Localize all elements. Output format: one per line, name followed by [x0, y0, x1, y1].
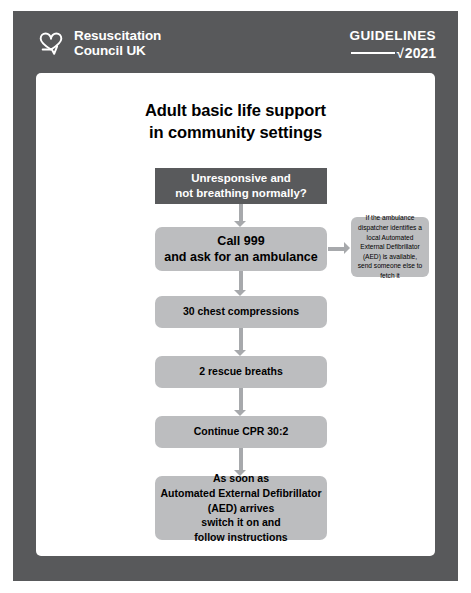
flowchart: Unresponsive and not breathing normally?… [36, 73, 435, 556]
content-card: Adult basic life support in community se… [36, 73, 435, 556]
flow-node-label: 2 rescue breaths [199, 365, 282, 379]
arrow-stem [239, 271, 243, 290]
flow-node-label: Unresponsive and not breathing normally? [175, 171, 307, 201]
guidelines-label: GUIDELINES [349, 29, 436, 43]
arrow-stem [239, 448, 243, 470]
flow-node-call-999: Call 999 and ask for an ambulance [155, 227, 327, 271]
tick-icon: √ [397, 46, 404, 61]
brand-name: Resuscitation Council UK [74, 28, 161, 58]
flow-node-chest-compressions: 30 chest compressions [155, 296, 327, 328]
brand-lockup: Resuscitation Council UK [37, 28, 161, 58]
arrow-stem [239, 388, 243, 410]
flow-node-label: Call 999 and ask for an ambulance [164, 233, 318, 266]
flow-node-label: 30 chest compressions [183, 305, 299, 319]
flow-node-continue-cpr: Continue CPR 30:2 [155, 416, 327, 448]
flow-node-unresponsive: Unresponsive and not breathing normally? [155, 168, 327, 204]
arrow-stem [239, 204, 243, 221]
poster-header: Resuscitation Council UK GUIDELINES √ 20… [13, 11, 458, 73]
guidelines-year: 2021 [405, 46, 436, 60]
guidelines-badge: GUIDELINES √ 2021 [349, 29, 436, 61]
arrow-head [344, 242, 350, 254]
flow-node-label: If the ambulance dispatcher identifies a… [356, 213, 424, 280]
flow-node-rescue-breaths: 2 rescue breaths [155, 356, 327, 388]
flow-arrow-down-1 [234, 204, 247, 227]
arrow-stem [328, 247, 344, 251]
flow-arrow-down-3 [234, 328, 247, 356]
guidelines-rule [351, 52, 395, 54]
flow-arrow-down-2 [234, 271, 247, 296]
flow-arrow-right-aed-note [328, 242, 350, 255]
flow-node-label: Continue CPR 30:2 [194, 425, 289, 439]
poster-frame: Resuscitation Council UK GUIDELINES √ 20… [13, 11, 458, 581]
heart-tick-icon [37, 29, 65, 57]
flow-node-label: As soon as Automated External Defibrilla… [160, 471, 321, 546]
flow-node-aed-note: If the ambulance dispatcher identifies a… [351, 217, 429, 277]
flow-node-aed-arrives: As soon as Automated External Defibrilla… [155, 476, 327, 540]
arrow-stem [239, 328, 243, 350]
flow-arrow-down-4 [234, 388, 247, 416]
guidelines-year-row: √ 2021 [349, 46, 436, 61]
